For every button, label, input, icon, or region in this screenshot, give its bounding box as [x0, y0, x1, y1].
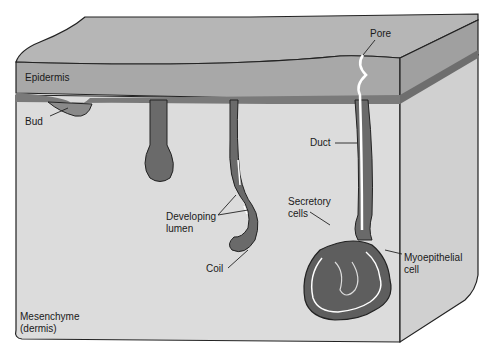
label-secretory-line2: cells [288, 208, 331, 220]
label-duct: Duct [310, 137, 331, 149]
label-pore: Pore [370, 28, 391, 40]
label-mesenchyme-line1: Mesenchyme [20, 311, 79, 323]
label-developing-line2: lumen [166, 223, 216, 235]
label-myoepithelial-line1: Myoepithelial [404, 252, 462, 264]
label-secretory-line1: Secretory [288, 196, 331, 208]
label-coil: Coil [206, 263, 223, 275]
label-developing-line1: Developing [166, 211, 216, 223]
label-myoepithelial-cell: Myoepithelial cell [404, 252, 462, 276]
label-mesenchyme-line2: (dermis) [20, 323, 79, 335]
secretory-coil [304, 241, 391, 320]
skin-block-diagram [0, 0, 498, 354]
label-bud: Bud [25, 116, 43, 128]
label-epidermis: Epidermis [25, 72, 69, 84]
block-side-face [400, 55, 478, 342]
label-myoepithelial-line2: cell [404, 264, 462, 276]
label-mesenchyme: Mesenchyme (dermis) [20, 311, 79, 335]
label-secretory-cells: Secretory cells [288, 196, 331, 220]
label-developing-lumen: Developing lumen [166, 211, 216, 235]
